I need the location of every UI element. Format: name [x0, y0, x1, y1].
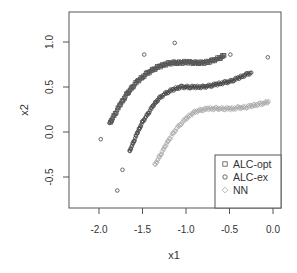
- circle-marker: [115, 189, 119, 193]
- legend-label-alc-opt: ALC-opt: [233, 158, 272, 170]
- x-axis: -2.0-1.5-1.0-0.50.0: [90, 208, 280, 235]
- plot-area: -2.0-1.5-1.0-0.50.0 -0.50.00.51.0 x1 x2 …: [0, 0, 297, 273]
- legend-label-nn: NN: [233, 184, 248, 196]
- legend-label-alc-ex: ALC-ex: [233, 171, 269, 183]
- x-tick-label: -1.5: [134, 224, 152, 235]
- y-axis-label: x2: [18, 104, 30, 116]
- x-tick-label: -2.0: [90, 224, 108, 235]
- circle-marker: [229, 53, 233, 57]
- x-tick-label: -1.0: [177, 224, 195, 235]
- legend: ALC-optALC-exNN: [215, 155, 281, 208]
- scatter-chart: -2.0-1.5-1.0-0.50.0 -0.50.00.51.0 x1 x2 …: [0, 0, 297, 273]
- y-tick-label: -0.5: [44, 168, 55, 186]
- y-tick-label: 0.0: [44, 125, 55, 139]
- circle-marker: [99, 137, 103, 141]
- x-tick-label: 0.0: [266, 224, 280, 235]
- y-tick-label: 0.5: [44, 80, 55, 94]
- series-alc-opt: [109, 54, 226, 125]
- circle-marker: [121, 168, 125, 172]
- circle-marker: [142, 53, 146, 57]
- x-axis-label: x1: [168, 249, 180, 261]
- y-axis: -0.50.00.51.0: [44, 35, 69, 186]
- x-tick-label: -0.5: [221, 224, 239, 235]
- circle-marker: [173, 41, 177, 45]
- circle-marker: [266, 56, 270, 60]
- y-tick-label: 1.0: [44, 35, 55, 49]
